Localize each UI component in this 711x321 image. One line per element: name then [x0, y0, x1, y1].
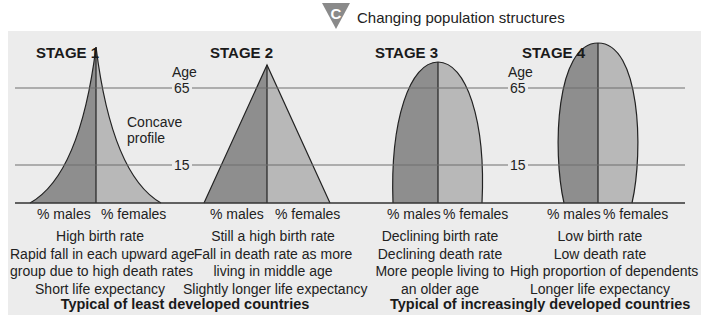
age-axis-label-1: Age [170, 64, 199, 80]
stage1-label: STAGE 1 [36, 44, 99, 61]
stage2-description: Still a high birth rate Fall in death ra… [183, 228, 363, 298]
desc-line: Fall in death rate as more [183, 246, 363, 264]
stage3-description: Declining birth rate Declining death rat… [370, 228, 510, 298]
svg-text:C: C [331, 5, 342, 22]
figure-title: Changing population structures [357, 9, 565, 26]
age-15-label-2: 15 [508, 157, 528, 173]
desc-line: Declining death rate [370, 246, 510, 264]
desc-line: living in middle age [183, 263, 363, 281]
age-axis-label-2: Age [506, 64, 535, 80]
stage1-males-label: % males [37, 206, 91, 222]
stage4-males-label: % males [547, 206, 601, 222]
concave-profile-annotation: Concave profile [127, 114, 182, 146]
age-65-label-1: 65 [172, 80, 192, 96]
desc-line: High birth rate [10, 228, 190, 246]
stage2-label: STAGE 2 [210, 44, 273, 61]
desc-line: group due to high death rates [10, 263, 190, 281]
age-65-label-2: 65 [508, 80, 528, 96]
stage4-description: Low birth rate Low death rate High propo… [510, 228, 690, 298]
stage2-females-label: % females [275, 206, 340, 222]
stage4-pyramid [558, 43, 638, 203]
stage4-label: STAGE 4 [522, 44, 585, 61]
desc-line: High proportion of dependents [510, 263, 690, 281]
stage2-pyramid [204, 65, 330, 203]
stage3-males-label: % males [387, 206, 441, 222]
annotation-line: profile [127, 130, 182, 146]
stage1-females-label: % females [101, 206, 166, 222]
stage3-label: STAGE 3 [375, 44, 438, 61]
desc-line: Rapid fall in each upward age [10, 246, 190, 264]
stage3-pyramid [393, 62, 483, 203]
desc-line: Low death rate [510, 246, 690, 264]
annotation-line: Concave [127, 114, 182, 130]
desc-line: More people living to [370, 263, 510, 281]
desc-line: Still a high birth rate [183, 228, 363, 246]
badge-c-icon: C [322, 3, 350, 29]
stage1-description: High birth rate Rapid fall in each upwar… [10, 228, 190, 298]
increasingly-developed-caption: Typical of increasingly developed countr… [390, 296, 660, 312]
age-15-label-1: 15 [172, 157, 192, 173]
desc-line: Low birth rate [510, 228, 690, 246]
desc-line: Declining birth rate [370, 228, 510, 246]
stage2-males-label: % males [210, 206, 264, 222]
stage4-females-label: % females [603, 206, 668, 222]
stage3-females-label: % females [443, 206, 508, 222]
least-developed-caption: Typical of least developed countries [60, 296, 310, 312]
